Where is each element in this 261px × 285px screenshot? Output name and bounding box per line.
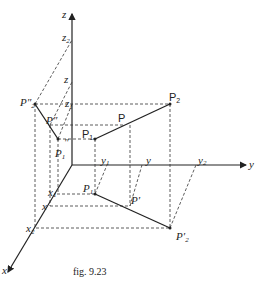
P-label: P <box>118 112 125 124</box>
y-label: y <box>145 154 151 166</box>
y2-label: y2 <box>197 154 207 167</box>
z2-label: z2 <box>61 31 70 45</box>
P-xy-label: P′ <box>130 194 141 206</box>
y1-label: y1 <box>100 154 109 167</box>
z-axis-label: z <box>61 8 67 20</box>
P2-xy-label: P′2 <box>175 230 189 244</box>
P1-yz-prime: ″ <box>64 136 69 148</box>
x-axis <box>8 165 72 272</box>
P-yz-label: P″ <box>45 114 58 126</box>
P1-xy-label: P1 <box>82 182 93 196</box>
y-axis-label: y <box>248 158 254 170</box>
x1-label: x1 <box>47 186 56 199</box>
z-label: z <box>63 73 69 85</box>
P1-label: P1 <box>82 128 93 141</box>
x-axis-label: x <box>1 264 7 276</box>
segment-P1-P2 <box>95 104 170 139</box>
figure-caption: fig. 9.23 <box>73 266 107 277</box>
projection-lines <box>35 40 196 228</box>
x-label: x <box>41 200 47 212</box>
x2-label: x2 <box>25 222 35 236</box>
P2-label: P2 <box>169 91 180 104</box>
P2-yz-label: P″2 <box>19 96 35 110</box>
projection-diagram: z y x z2 z z1 y1 y y2 x1 x x2 P2 P P1 P″… <box>0 0 261 285</box>
P1-yz-label: P1 <box>54 147 65 161</box>
